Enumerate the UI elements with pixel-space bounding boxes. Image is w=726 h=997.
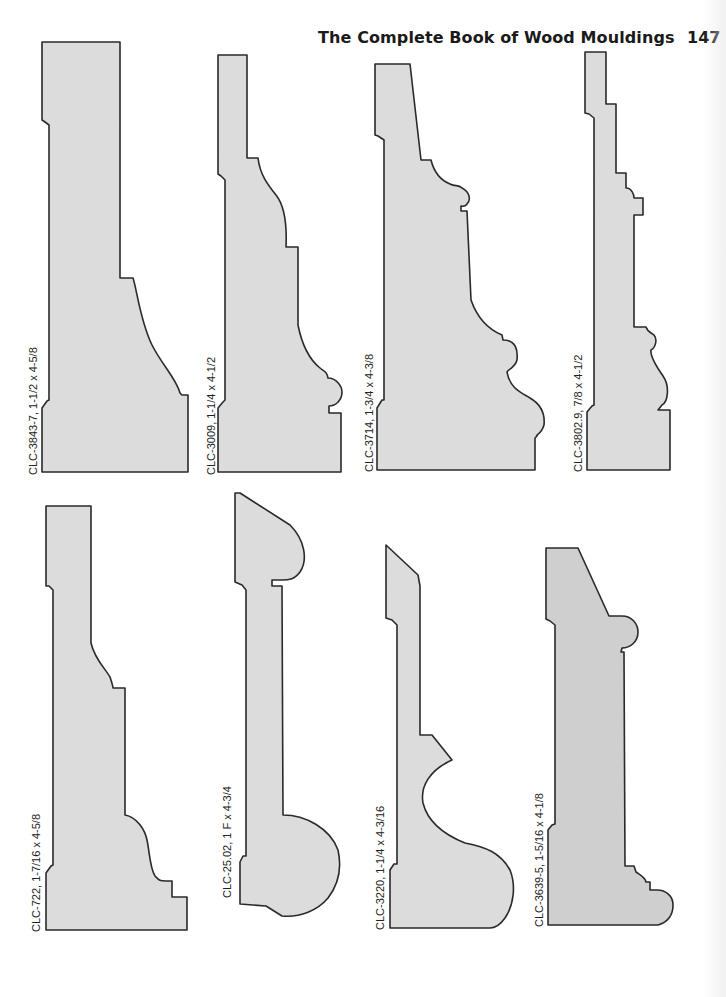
profile-clc-3220 xyxy=(386,545,513,928)
profile-clc-3802-9 xyxy=(585,52,670,470)
profile-clc-3714 xyxy=(375,64,544,470)
profile-label-clc-722: CLC-722, 1-7/16 x 4-5/8 xyxy=(30,814,42,932)
profile-label-clc-3009: CLC-3009, 1-1/4 x 4-1/2 xyxy=(205,357,217,475)
profile-clc-3843-7 xyxy=(42,42,188,472)
profile-label-clc-3220: CLC-3220, 1-1/4 x 4-3/16 xyxy=(374,806,386,930)
profile-clc-3639-5 xyxy=(546,548,673,925)
page-edge-shadow xyxy=(704,0,726,997)
moulding-profiles xyxy=(0,0,726,997)
profile-clc-3009 xyxy=(218,55,342,472)
profile-clc-722 xyxy=(46,506,187,930)
profile-label-clc-25-02: CLC-25.02, 1 F x 4-3/4 xyxy=(221,786,233,898)
profile-label-clc-3714: CLC-3714, 1-3/4 x 4-3/8 xyxy=(363,354,375,472)
profile-label-clc-3639-5: CLC-3639-5, 1-5/16 x 4-1/8 xyxy=(533,793,545,927)
profile-label-clc-3802-9: CLC-3802.9, 7/8 x 4-1/2 xyxy=(572,355,584,472)
profile-label-clc-3843-7: CLC-3843-7, 1-1/2 x 4-5/8 xyxy=(27,347,39,475)
profile-clc-25-02 xyxy=(235,493,340,916)
